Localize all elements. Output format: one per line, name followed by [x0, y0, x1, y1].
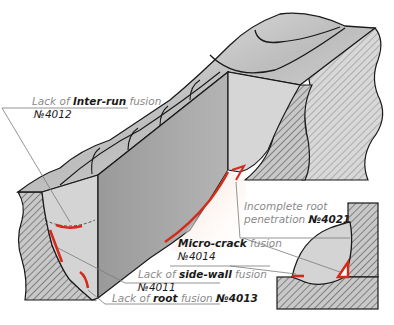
code-micro-crack-fusion: №4014: [178, 250, 216, 263]
label-incomplete-root-penetration: Incomplete root: [244, 200, 327, 213]
label-inter-run-fusion: Lack of Inter-run fusion: [32, 95, 161, 108]
label-side-wall-fusion: Lack of side-wall fusion: [138, 268, 267, 281]
code-incomplete-root-penetration: penetration №4021: [244, 213, 350, 226]
label-micro-crack-fusion: Micro-crack fusion: [178, 237, 282, 250]
label-root-fusion: Lack of root fusion №4013: [112, 292, 258, 305]
code-inter-run-fusion: №4012: [34, 108, 72, 121]
